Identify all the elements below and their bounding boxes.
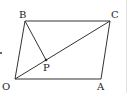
label-A: A xyxy=(96,81,105,92)
segment-AC xyxy=(101,21,110,79)
label-P: P xyxy=(43,62,50,73)
parallelogram-diagram: B C P O A xyxy=(0,0,129,93)
label-O: O xyxy=(2,81,10,92)
stray-dot xyxy=(0,52,2,54)
point-P-dot xyxy=(45,59,48,62)
label-C: C xyxy=(111,9,119,20)
segment-BP xyxy=(25,21,46,60)
label-B: B xyxy=(19,9,26,20)
segment-BO xyxy=(15,21,25,79)
